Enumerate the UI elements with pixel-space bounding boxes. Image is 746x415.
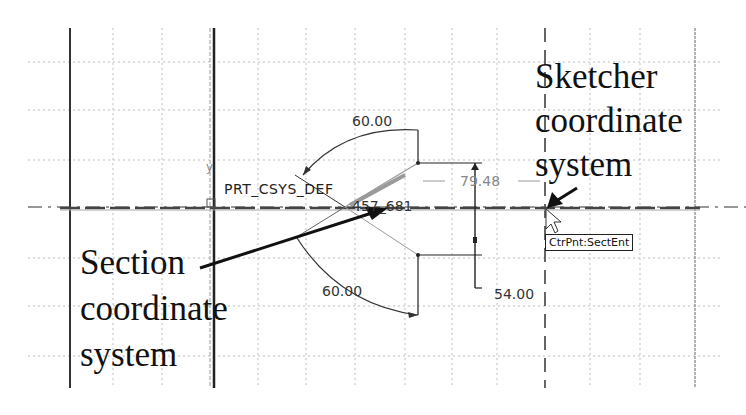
section-annotation-line-3: system — [80, 332, 228, 378]
entity-id-label[interactable]: 457_681 — [352, 198, 412, 214]
sketch-canvas[interactable]: PRT_CSYS_DEF y 457_681 60.00 60.00 79.48… — [0, 0, 746, 415]
section-annotation-line-2: coordinate — [80, 286, 228, 332]
y-axis-label: y — [206, 160, 213, 174]
sketcher-annotation-line-1: Sketcher — [535, 55, 683, 99]
mouse-cursor-icon — [546, 209, 561, 233]
section-annotation: Section coordinate system — [80, 240, 228, 378]
dimension-horizontal[interactable]: 79.48 — [460, 173, 500, 189]
sketcher-annotation: Sketcher coordinate system — [535, 55, 683, 187]
sketcher-annotation-line-3: system — [535, 143, 683, 187]
dimension-vertical[interactable]: 54.00 — [494, 286, 534, 302]
section-annotation-line-1: Section — [80, 240, 228, 286]
csys-name-label[interactable]: PRT_CSYS_DEF — [224, 181, 333, 197]
angle-arc-bottom[interactable] — [297, 238, 418, 315]
construction-line-lower — [345, 207, 418, 255]
dimension-angle-bottom[interactable]: 60.00 — [322, 283, 362, 299]
dimension-angle-top[interactable]: 60.00 — [352, 113, 392, 129]
angle-arc-top[interactable] — [303, 130, 418, 175]
sketcher-annotation-line-2: coordinate — [535, 99, 683, 143]
entity-tooltip: CtrPnt:SectEnt — [545, 234, 633, 251]
